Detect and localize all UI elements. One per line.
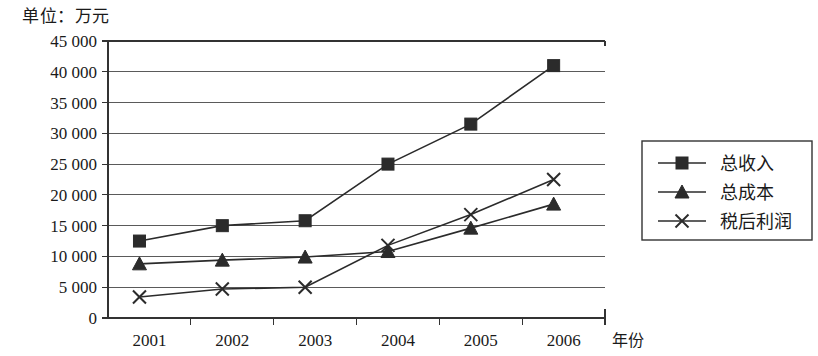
x-tick-label-2003: 2003: [298, 331, 332, 350]
y-tick-label: 0: [89, 309, 98, 328]
x-tick-label-2002: 2002: [215, 331, 249, 350]
x-tick-label-2001: 2001: [132, 331, 166, 350]
data-point-总收入-2004: [382, 158, 394, 170]
y-axis-ticks: [102, 41, 108, 318]
data-point-总成本-2005: [464, 221, 478, 234]
y-tick-label: 30 000: [50, 124, 97, 143]
y-tick-label: 20 000: [50, 186, 97, 205]
line-chart-plot: 200120022003200420052006 05 00010 00015 …: [0, 0, 818, 356]
series-line-税后利润: [139, 180, 553, 298]
y-tick-label: 40 000: [50, 63, 97, 82]
x-tick-label-2005: 2005: [464, 331, 498, 350]
gridlines: [108, 41, 605, 287]
series-line-总成本: [139, 204, 553, 264]
y-tick-label: 35 000: [50, 94, 97, 113]
y-tick-label: 5 000: [59, 278, 97, 297]
y-axis-labels: 05 00010 00015 00020 00025 00030 00035 0…: [50, 32, 97, 328]
y-tick-label: 15 000: [50, 217, 97, 236]
legend-label-总成本: 总成本: [720, 183, 774, 203]
chart-container: 单位：万元 200120022003200420052006 05 00010 …: [0, 0, 818, 356]
x-axis-labels: 200120022003200420052006: [132, 331, 580, 350]
y-tick-label: 45 000: [50, 32, 97, 51]
series-line-总收入: [139, 66, 553, 241]
legend-label-总收入: 总收入: [720, 154, 774, 174]
data-point-总收入-2003: [299, 215, 311, 227]
legend-marker-square-icon: [676, 157, 688, 169]
x-tick-label-2004: 2004: [381, 331, 416, 350]
y-tick-label: 10 000: [50, 247, 97, 266]
x-axis-title: 年份: [612, 332, 644, 349]
data-point-总成本-2006: [547, 197, 561, 210]
x-tick-label-2006: 2006: [547, 331, 581, 350]
chart-legend: 总收入总成本税后利润: [642, 141, 812, 240]
legend-label-税后利润: 税后利润: [720, 212, 792, 232]
data-point-总收入-2006: [548, 60, 560, 72]
data-series: [132, 60, 560, 304]
y-tick-label: 25 000: [50, 155, 97, 174]
x-axis-ticks: [191, 318, 605, 325]
data-point-总收入-2005: [465, 118, 477, 130]
x-axis-title-label: 年份: [612, 332, 644, 349]
data-point-总收入-2001: [133, 235, 145, 247]
data-point-总收入-2002: [216, 220, 228, 232]
